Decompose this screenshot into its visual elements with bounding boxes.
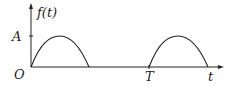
y-axis xyxy=(29,3,33,67)
y-axis-label: f(t) xyxy=(36,5,57,20)
period-label: T xyxy=(145,69,155,84)
amplitude-label: A xyxy=(11,29,21,44)
x-axis xyxy=(31,65,224,69)
y-axis-arrow-icon xyxy=(29,3,33,9)
pulse-1-curve xyxy=(31,36,89,67)
x-axis-label: t xyxy=(208,69,214,84)
origin-label: O xyxy=(14,67,25,82)
x-axis-arrow-icon xyxy=(218,65,224,69)
pulse-train-diagram: f(t) A O T t xyxy=(0,0,234,87)
pulse-2-curve xyxy=(149,36,208,67)
